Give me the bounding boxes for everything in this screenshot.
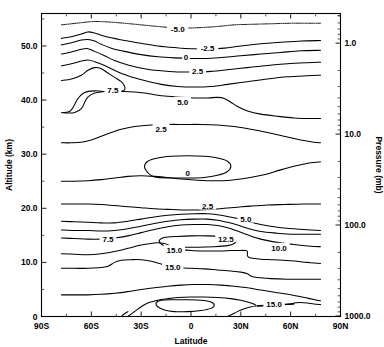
x-tick-label: 0 — [189, 321, 194, 331]
y-left-tick-label: 20.0 — [21, 203, 38, 213]
contour-label: 7.5 — [107, 86, 119, 95]
contour-label: 5.0 — [240, 215, 252, 224]
contour-label: 2.5 — [156, 125, 168, 134]
contour-label: 10.0 — [271, 244, 287, 253]
contour-label: 5.0 — [177, 98, 189, 107]
contour-plot-figure: -5.0-2.502.57.55.02.502.55.07.512.510.01… — [0, 0, 384, 347]
y-axis-right-title: Pressure (mb) — [374, 136, 384, 193]
contour-label: 15.0 — [167, 246, 183, 255]
x-tick-label: 60N — [283, 321, 299, 331]
y-left-tick-label: 50.0 — [21, 41, 38, 51]
contour-label: -5.0 — [171, 25, 185, 34]
contour-label: 0 — [185, 169, 190, 178]
contour-label: 2.5 — [202, 202, 214, 211]
contour-plot-svg: -5.0-2.502.57.55.02.502.55.07.512.510.01… — [0, 0, 384, 347]
y-right-tick-label: 1.0 — [345, 38, 357, 48]
contour-label: 0 — [184, 53, 189, 62]
contour-label: 15.0 — [266, 300, 282, 309]
contour-label: 15.0 — [165, 263, 181, 272]
y-left-tick-label: 40.0 — [21, 95, 38, 105]
contour-label: 2.5 — [192, 67, 204, 76]
contour-label: 12.5 — [218, 235, 234, 244]
y-right-tick-label: 1000.0 — [345, 311, 371, 321]
x-tick-label: 30N — [233, 321, 249, 331]
figure-background — [0, 0, 384, 347]
contour-label: -2.5 — [201, 44, 215, 53]
contour-label: 7.5 — [102, 235, 114, 244]
y-right-tick-label: 10.0 — [345, 129, 362, 139]
x-tick-label: 60S — [84, 321, 99, 331]
y-left-tick-label: 0 — [33, 312, 38, 322]
x-axis-title: Latitude — [174, 336, 207, 346]
y-right-tick-label: 100.0 — [345, 220, 367, 230]
x-tick-label: 90N — [333, 321, 349, 331]
x-tick-label: 30S — [134, 321, 149, 331]
y-left-tick-label: 10.0 — [21, 257, 38, 267]
y-left-tick-label: 30.0 — [21, 149, 38, 159]
x-tick-label: 90S — [34, 321, 49, 331]
y-axis-left-title: Altitude (km) — [4, 139, 14, 191]
